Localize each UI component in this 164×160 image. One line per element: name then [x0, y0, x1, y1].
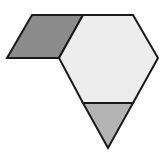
pattern-block-diagram: [0, 0, 164, 160]
triangle-shape: [83, 103, 133, 148]
